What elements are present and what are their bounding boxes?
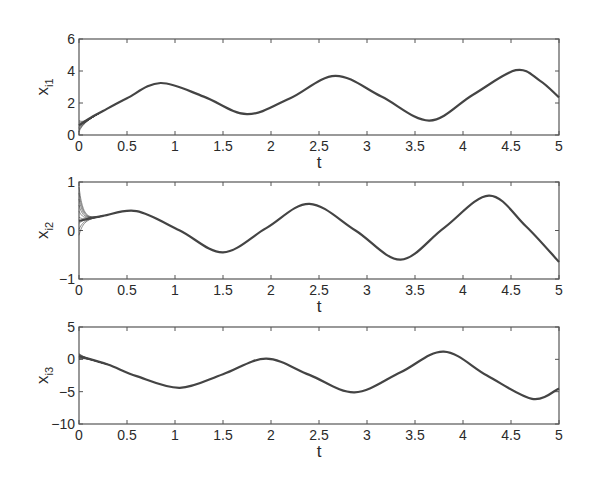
- state-curve: [79, 352, 559, 399]
- x-tick-label: 2.5: [309, 138, 329, 154]
- subplot-x-i2: 00.511.522.533.544.55−101txi2: [33, 174, 563, 316]
- x-tick-label: 4.5: [501, 427, 521, 443]
- x-tick-label: 4.5: [501, 138, 521, 154]
- y-tick-label: 4: [67, 63, 75, 79]
- x-tick-label: 1: [171, 282, 179, 298]
- x-tick-label: 1.5: [213, 427, 233, 443]
- x-tick-label: 0: [75, 282, 83, 298]
- y-axis-label: xi1: [33, 78, 55, 95]
- y-tick-label: −10: [51, 416, 75, 432]
- x-tick-label: 2.5: [309, 427, 329, 443]
- x-tick-label: 0.5: [117, 282, 137, 298]
- agent-transient-curve: [79, 187, 103, 217]
- subplot-x-i1: 00.511.522.533.544.550246txi1: [33, 31, 563, 172]
- x-tick-label: 5: [555, 138, 563, 154]
- x-axis-label: t: [317, 442, 322, 461]
- y-axis-label: xi2: [33, 222, 55, 239]
- x-tick-label: 1: [171, 138, 179, 154]
- y-axis-label: xi3: [33, 367, 55, 384]
- x-tick-label: 2: [267, 427, 275, 443]
- y-tick-label: 0: [67, 351, 75, 367]
- x-tick-label: 1: [171, 427, 179, 443]
- x-tick-label: 0: [75, 138, 83, 154]
- x-axis-label: t: [317, 297, 322, 316]
- x-tick-label: 3: [363, 282, 371, 298]
- x-tick-label: 3: [363, 427, 371, 443]
- y-tick-label: 2: [67, 95, 75, 111]
- x-tick-label: 3.5: [405, 427, 425, 443]
- x-tick-label: 3: [363, 138, 371, 154]
- x-tick-label: 3.5: [405, 282, 425, 298]
- x-tick-label: 2.5: [309, 282, 329, 298]
- x-tick-label: 1.5: [213, 282, 233, 298]
- x-tick-label: 1.5: [213, 138, 233, 154]
- x-tick-label: 2: [267, 282, 275, 298]
- state-curve: [79, 196, 559, 262]
- x-tick-label: 0.5: [117, 138, 137, 154]
- x-tick-label: 4: [459, 138, 467, 154]
- y-tick-label: 6: [67, 31, 75, 47]
- x-tick-label: 4: [459, 427, 467, 443]
- y-tick-label: 5: [67, 319, 75, 335]
- x-tick-label: 2: [267, 138, 275, 154]
- x-tick-label: 4.5: [501, 282, 521, 298]
- x-tick-label: 3.5: [405, 138, 425, 154]
- figure: 00.511.522.533.544.550246txi1 00.511.522…: [0, 0, 595, 480]
- x-axis-label: t: [317, 153, 322, 172]
- x-tick-label: 0: [75, 427, 83, 443]
- state-curve: [79, 70, 559, 126]
- x-tick-label: 0.5: [117, 427, 137, 443]
- y-tick-label: −5: [59, 384, 75, 400]
- y-tick-label: −1: [59, 271, 75, 287]
- x-tick-label: 5: [555, 282, 563, 298]
- y-tick-label: 0: [67, 127, 75, 143]
- x-tick-label: 5: [555, 427, 563, 443]
- x-tick-label: 4: [459, 282, 467, 298]
- subplot-x-i3: 00.511.522.533.544.55−10−505txi3: [33, 319, 563, 461]
- y-tick-label: 1: [67, 174, 75, 190]
- y-tick-label: 0: [67, 223, 75, 239]
